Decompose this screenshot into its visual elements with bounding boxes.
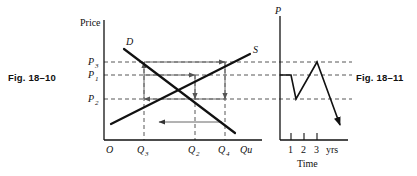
- price-path-zigzag: [280, 62, 340, 125]
- right-tick-label-1: 1: [288, 144, 293, 155]
- x-tick-label-q3: Q 3: [137, 144, 149, 158]
- time-axis-label: Time: [297, 158, 318, 169]
- svg-text:2: 2: [95, 99, 99, 107]
- demand-curve-label: D: [125, 36, 134, 47]
- right-tick-label-3: 3: [314, 144, 319, 155]
- x-tick-label-q4: Q 4: [218, 144, 230, 158]
- svg-text:1: 1: [95, 75, 99, 83]
- svg-text:3: 3: [144, 150, 149, 158]
- right-tick-label-2: 2: [301, 144, 306, 155]
- svg-text:Q: Q: [137, 144, 145, 155]
- supply-curve-label: S: [253, 44, 258, 55]
- supply-curve: [111, 54, 250, 124]
- svg-text:P: P: [87, 56, 94, 67]
- y-tick-label-p2: P 2: [87, 93, 99, 107]
- svg-text:P: P: [87, 69, 94, 80]
- diagram-svg: Price D S O P 3 P 1 P 2 Q 3 Q 2: [0, 0, 417, 176]
- quantity-axis-label: Qu: [240, 144, 252, 155]
- svg-text:Q: Q: [218, 144, 226, 155]
- figure-pair-container: Fig. 18–10 Fig. 18–11: [0, 0, 417, 176]
- svg-text:Q: Q: [188, 144, 196, 155]
- price-axis-label: Price: [80, 17, 101, 28]
- svg-text:3: 3: [94, 62, 99, 70]
- y-tick-label-p3: P 3: [87, 56, 99, 70]
- x-tick-label-q2: Q 2: [188, 144, 200, 158]
- svg-text:P: P: [87, 93, 94, 104]
- left-chart-group: Price D S O P 3 P 1 P 2 Q 3 Q 2: [80, 17, 352, 158]
- svg-text:2: 2: [196, 150, 200, 158]
- y-tick-label-p1: P 1: [87, 69, 99, 83]
- years-unit-label: yrs: [326, 144, 338, 155]
- svg-text:4: 4: [226, 150, 230, 158]
- right-chart-group: P 1 2 3 yrs Time: [274, 5, 348, 169]
- right-p-axis-label: P: [274, 5, 281, 16]
- origin-label: O: [106, 144, 113, 155]
